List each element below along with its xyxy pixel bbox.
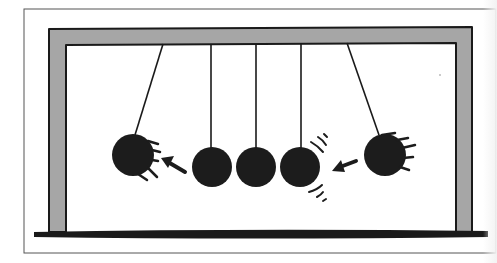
speck <box>439 74 441 76</box>
page-edge-shadow <box>483 0 497 263</box>
right-swinging-ball <box>364 133 415 176</box>
newtons-cradle-illustration <box>0 0 497 263</box>
strings <box>135 43 379 148</box>
arrow-right-icon <box>332 160 356 172</box>
left-swinging-ball <box>112 134 160 180</box>
cradle-base <box>34 230 488 239</box>
ball-2 <box>192 147 232 187</box>
cradle-frame <box>49 27 472 232</box>
arrow-left-icon <box>161 156 185 172</box>
ball-4 <box>280 147 320 187</box>
ball-3 <box>236 147 276 187</box>
